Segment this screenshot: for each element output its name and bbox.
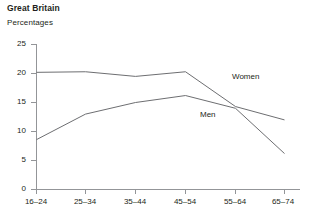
chart-container: Great Britain Percentages 25 20 15 10 5 … <box>0 0 322 212</box>
plot-area <box>0 0 322 212</box>
axes <box>36 44 300 190</box>
y-tick-marks <box>31 45 36 190</box>
line-series-women <box>37 72 285 120</box>
x-tick-marks <box>37 190 285 195</box>
line-series-men <box>37 96 285 154</box>
